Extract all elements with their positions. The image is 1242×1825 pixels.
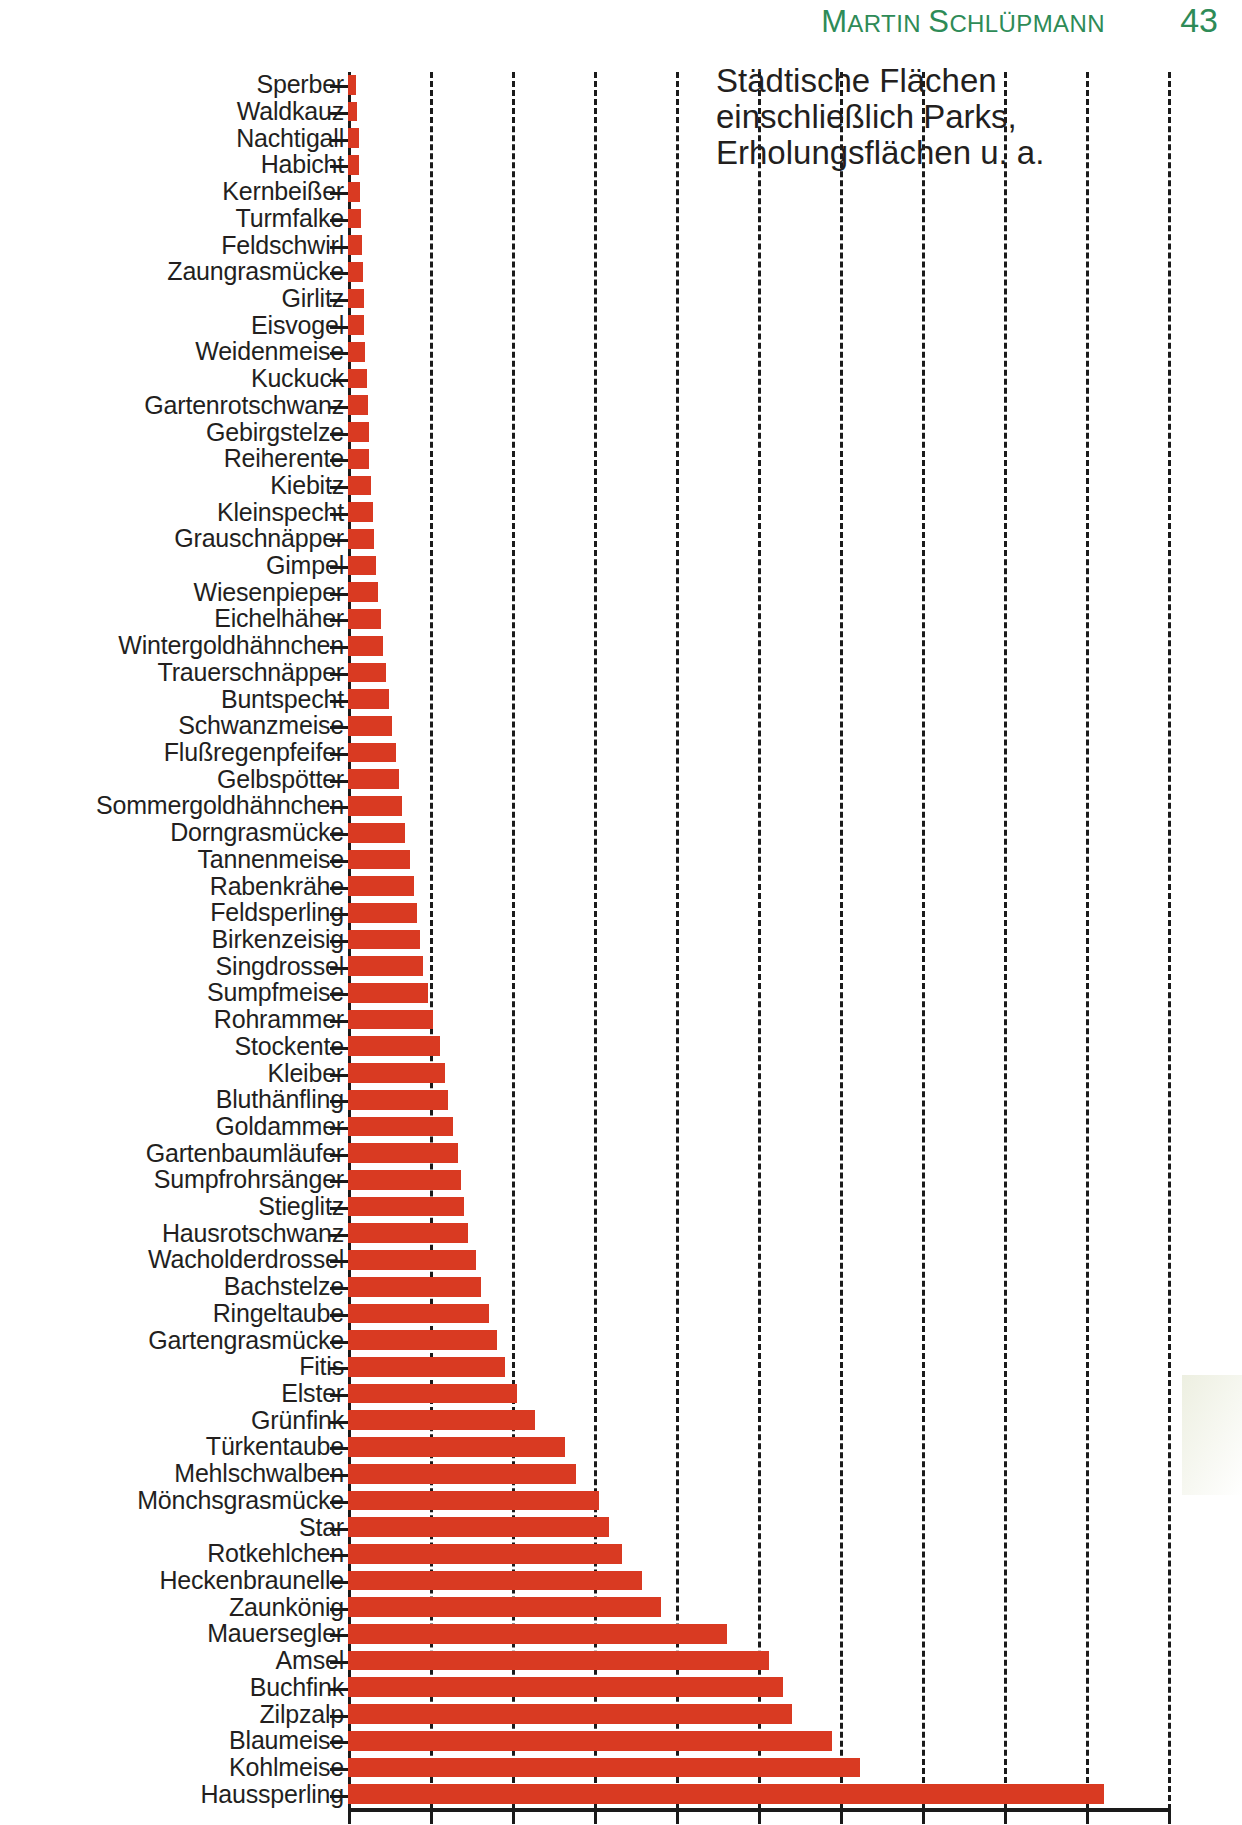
bar-row: Zilpzalp	[0, 1701, 1242, 1728]
category-label: Sumpfrohrsänger	[154, 1167, 344, 1192]
bar	[348, 609, 381, 629]
bar	[348, 1731, 832, 1751]
bar-row: Turmfalke	[0, 206, 1242, 233]
bar-row: Zaunkönig	[0, 1594, 1242, 1621]
y-tick	[330, 753, 348, 756]
bar-row: Schwanzmeise	[0, 713, 1242, 740]
y-tick	[330, 1127, 348, 1130]
category-label: Haussperling	[200, 1782, 344, 1807]
bar-row: Girlitz	[0, 286, 1242, 313]
y-tick	[330, 566, 348, 569]
y-tick	[330, 272, 348, 275]
x-tick-8	[1004, 1810, 1007, 1824]
bar	[348, 1517, 609, 1537]
bar-row: Feldschwirl	[0, 232, 1242, 259]
y-tick	[330, 352, 348, 355]
bar-row: Kleiber	[0, 1060, 1242, 1087]
bar-row: Singdrossel	[0, 953, 1242, 980]
y-tick	[330, 913, 348, 916]
bar-row: Elster	[0, 1381, 1242, 1408]
bar-row: Türkentaube	[0, 1434, 1242, 1461]
bar-row: Rohrammer	[0, 1007, 1242, 1034]
y-tick	[330, 1608, 348, 1611]
y-tick	[330, 806, 348, 809]
category-label: Dorngrasmücke	[170, 820, 344, 845]
category-label: Trauerschnäpper	[158, 660, 344, 685]
category-label: Zaungrasmücke	[167, 259, 344, 284]
bar	[348, 102, 357, 122]
bar-row: Gartenrotschwanz	[0, 392, 1242, 419]
y-tick	[330, 1020, 348, 1023]
bar	[348, 1090, 448, 1110]
bar	[348, 128, 359, 148]
bar-row: Grünfink	[0, 1407, 1242, 1434]
y-tick	[330, 139, 348, 142]
bar-chart: SperberWaldkauzNachtigallHabichtKernbeiß…	[0, 0, 1242, 1825]
category-label: Rabenkrähe	[210, 874, 344, 899]
bar	[348, 75, 356, 95]
bar-row: Reiherente	[0, 446, 1242, 473]
bar	[348, 1464, 576, 1484]
y-tick	[330, 1634, 348, 1637]
bar-row: Haussperling	[0, 1781, 1242, 1808]
y-tick	[330, 1581, 348, 1584]
category-label: Singdrossel	[216, 954, 344, 979]
bar-row: Stockente	[0, 1033, 1242, 1060]
bar	[348, 395, 368, 415]
bar-row: Kohlmeise	[0, 1755, 1242, 1782]
y-tick	[330, 1154, 348, 1157]
bar	[348, 1117, 453, 1137]
category-label: Rotkehlchen	[207, 1541, 344, 1566]
y-tick	[330, 112, 348, 115]
category-label: Turmfalke	[236, 206, 344, 231]
bar	[348, 796, 402, 816]
category-label: Rohrammer	[214, 1007, 344, 1032]
bar	[348, 1758, 860, 1778]
y-tick	[330, 1100, 348, 1103]
y-tick	[330, 646, 348, 649]
bar	[348, 315, 364, 335]
y-tick	[330, 1528, 348, 1531]
bar-row: Wacholderdrossel	[0, 1247, 1242, 1274]
y-tick	[330, 246, 348, 249]
bar	[348, 235, 362, 255]
y-tick	[330, 1287, 348, 1290]
y-tick	[330, 700, 348, 703]
category-label: Tannenmeise	[197, 847, 344, 872]
bar	[348, 1410, 535, 1430]
category-label: Bluthänfling	[216, 1087, 344, 1112]
y-tick	[330, 1715, 348, 1718]
category-label: Gartenrotschwanz	[144, 393, 344, 418]
bar	[348, 1651, 769, 1671]
bar	[348, 1784, 1104, 1804]
bar	[348, 289, 364, 309]
bar-row: Feldsperling	[0, 900, 1242, 927]
bar	[348, 1544, 622, 1564]
bar-row: Blaumeise	[0, 1728, 1242, 1755]
bar	[348, 209, 361, 229]
category-label: Kleinspecht	[217, 500, 344, 525]
x-tick-0	[348, 1810, 351, 1824]
bar	[348, 155, 359, 175]
bar	[348, 529, 374, 549]
bar	[348, 743, 396, 763]
category-label: Heckenbraunelle	[159, 1568, 344, 1593]
category-label: Blaumeise	[229, 1728, 344, 1753]
bar-row: Fitis	[0, 1354, 1242, 1381]
bar-row: Sommergoldhähnchen	[0, 793, 1242, 820]
bar-row: Bluthänfling	[0, 1087, 1242, 1114]
bar	[348, 1491, 599, 1511]
bar-row: Gebirgstelze	[0, 419, 1242, 446]
bar	[348, 369, 367, 389]
x-tick-7	[922, 1810, 925, 1824]
y-tick	[330, 192, 348, 195]
y-tick	[330, 1234, 348, 1237]
y-tick	[330, 1474, 348, 1477]
y-tick	[330, 299, 348, 302]
category-label: Flußregenpfeifer	[164, 740, 344, 765]
category-label: Gartenbaumläufer	[146, 1141, 344, 1166]
y-tick	[330, 326, 348, 329]
y-tick	[330, 1367, 348, 1370]
bar-row: Stieglitz	[0, 1194, 1242, 1221]
bar	[348, 1330, 497, 1350]
